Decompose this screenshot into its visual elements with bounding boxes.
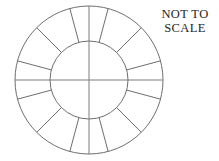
figure-layer — [15, 6, 163, 154]
segment-spoke-7 — [70, 118, 79, 152]
segment-spoke-11 — [37, 28, 62, 53]
segment-spoke-6 — [99, 118, 108, 152]
segment-spoke-1 — [99, 9, 108, 43]
segment-spoke-12 — [70, 9, 79, 43]
segment-spoke-5 — [117, 108, 142, 133]
diagram-root: NOT TO SCALE — [0, 0, 219, 161]
not-to-scale-note: NOT TO SCALE — [154, 7, 216, 35]
segment-spoke-4 — [127, 90, 161, 99]
segment-spoke-10 — [18, 61, 52, 70]
note-line-1: NOT TO — [154, 7, 216, 21]
segment-spoke-9 — [18, 90, 52, 99]
note-line-2: SCALE — [154, 21, 216, 35]
segment-spoke-8 — [37, 108, 62, 133]
segment-spoke-2 — [117, 28, 142, 53]
segment-spoke-3 — [127, 61, 161, 70]
